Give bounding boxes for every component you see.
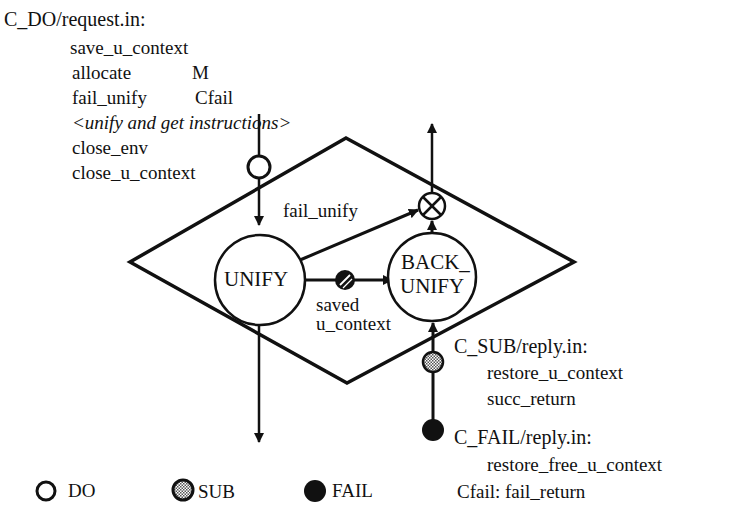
request-line-3: fail_unify	[72, 87, 147, 109]
sub-reply-title: C_SUB/reply.in:	[454, 335, 588, 357]
back-unify-label-2: UNIFY	[400, 275, 464, 297]
request-line-1: save_u_context	[70, 37, 188, 59]
request-line-2: allocate	[72, 62, 131, 84]
merge-x-icon	[419, 193, 445, 219]
legend-do-label: DO	[68, 480, 95, 502]
fail-reply-footer: Cfail: fail_return	[457, 481, 585, 503]
do-marker-icon	[248, 156, 270, 178]
legend-sub-label: SUB	[198, 481, 235, 503]
request-line-6: close_u_context	[72, 162, 195, 184]
fail-reply-marker-icon	[422, 419, 444, 441]
fail-reply-line-1: restore_free_u_context	[487, 454, 662, 476]
sub-reply-line-2: succ_return	[487, 388, 576, 410]
saved-label-2: u_context	[316, 313, 391, 335]
sub-reply-marker-icon	[423, 352, 443, 372]
fail-reply-title: C_FAIL/reply.in:	[454, 426, 592, 448]
request-line-2-arg: M	[192, 62, 209, 84]
legend-fail-icon	[304, 480, 326, 502]
request-title: C_DO/request.in:	[4, 8, 146, 30]
sub-reply-line-1: restore_u_context	[487, 362, 623, 384]
legend-do-icon	[37, 482, 55, 500]
request-line-4: <unify and get instructions>	[72, 112, 291, 134]
legend-sub-icon	[173, 480, 193, 500]
request-line-3-arg: Cfail	[195, 87, 233, 109]
legend-fail-label: FAIL	[332, 480, 373, 502]
back-unify-label-1: BACK_	[401, 251, 470, 273]
fail-unify-edge-label: fail_unify	[283, 200, 358, 222]
request-line-5: close_env	[72, 137, 148, 159]
unify-label: UNIFY	[224, 268, 288, 290]
